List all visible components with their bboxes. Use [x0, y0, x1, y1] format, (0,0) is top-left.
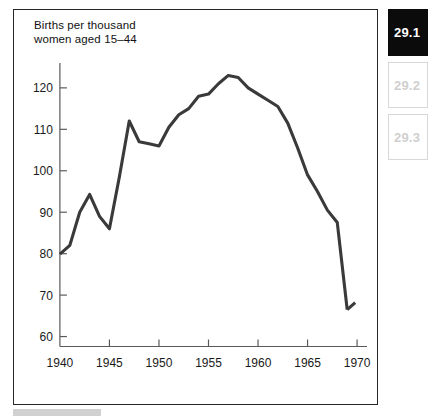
x-tick-label-1945: 1945 [96, 356, 123, 370]
x-tick-label-1940: 1940 [47, 356, 74, 370]
caption-placeholder-bar [13, 409, 101, 416]
y-tick-label-70: 70 [40, 289, 54, 303]
tab-29-1[interactable]: 29.1 [388, 9, 428, 56]
line-chart: 6070809010011012019401945195019551960196… [14, 10, 377, 404]
data-line [60, 75, 347, 309]
y-tick-label-60: 60 [40, 330, 54, 344]
x-tick-label-1950: 1950 [146, 356, 173, 370]
y-tick-label-120: 120 [33, 81, 53, 95]
tab-29-3-label: 29.3 [394, 130, 420, 145]
x-tick-label-1970: 1970 [344, 356, 371, 370]
y-tick-label-110: 110 [34, 123, 53, 137]
tab-29-2-label: 29.2 [394, 78, 420, 93]
figure-screenshot: Births per thousand women aged 15–44 607… [0, 0, 428, 419]
data-line-end-hook [347, 303, 355, 310]
y-tick-label-100: 100 [33, 164, 53, 178]
x-tick-label-1965: 1965 [294, 356, 321, 370]
tab-29-2[interactable]: 29.2 [388, 62, 428, 108]
x-tick-label-1955: 1955 [195, 356, 222, 370]
tab-29-1-label: 29.1 [394, 25, 420, 40]
figure-tab-rail: 29.1 29.2 29.3 [388, 9, 428, 169]
tab-29-3[interactable]: 29.3 [388, 114, 428, 160]
chart-panel: Births per thousand women aged 15–44 607… [13, 9, 378, 405]
y-tick-label-90: 90 [40, 206, 54, 220]
y-tick-label-80: 80 [40, 247, 54, 261]
x-tick-label-1960: 1960 [245, 356, 272, 370]
